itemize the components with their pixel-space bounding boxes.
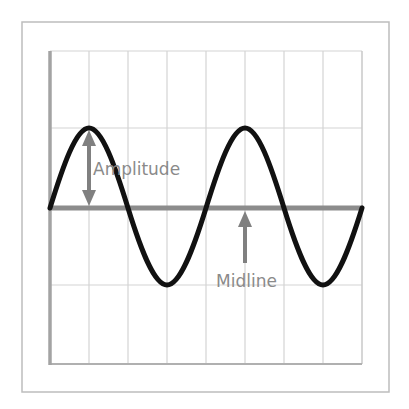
- amplitude-label: Amplitude: [93, 159, 180, 179]
- sine-wave-diagram: Amplitude Midline: [0, 0, 409, 409]
- midline-label: Midline: [216, 271, 277, 291]
